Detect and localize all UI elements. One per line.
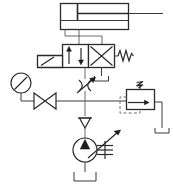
hydraulic-schematic: Hydraulic Circuit Schematic (0, 0, 173, 187)
relief-valve-spring (137, 82, 144, 90)
valve-return-spring (115, 51, 134, 62)
pump-variable-arrow (88, 130, 121, 158)
check-valve (78, 101, 92, 138)
relief-tank-icon (155, 128, 169, 133)
relief-outlet-line (155, 102, 163, 128)
pump-flow-triangle (80, 140, 89, 150)
double-acting-cylinder (61, 4, 164, 30)
shutoff-right-triangle (45, 93, 56, 109)
valve-drain-reservoir-icon (95, 76, 109, 81)
cylinder-port-lines (65, 30, 102, 45)
pressure-gauge (11, 73, 34, 101)
relief-valve-envelope (127, 90, 155, 110)
check-valve-poppet (80, 118, 91, 128)
reservoir-symbol (74, 172, 96, 181)
reservoir-tank (74, 172, 96, 181)
variable-displacement-pump (73, 130, 121, 172)
gauge-needle (15, 77, 28, 90)
valve-manual-lever-actuator[interactable] (38, 56, 63, 68)
valve-envelope-parallel (63, 45, 89, 68)
cylinder-barrel (61, 4, 129, 30)
shutoff-valve[interactable] (34, 93, 56, 109)
directional-control-valve[interactable] (38, 45, 134, 82)
adjustable-throttle-valve[interactable] (77, 77, 96, 93)
shutoff-left-triangle (34, 93, 45, 109)
circuit-canvas (0, 0, 173, 187)
pressure-relief-valve[interactable] (120, 82, 169, 134)
